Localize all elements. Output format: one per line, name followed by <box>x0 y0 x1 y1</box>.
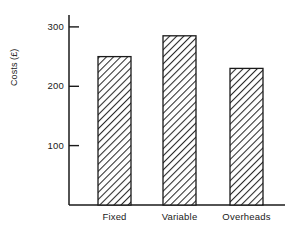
bar-overheads <box>230 68 263 205</box>
x-tick-label-overheads: Overheads <box>212 211 281 222</box>
plot-area <box>0 0 302 232</box>
bar-chart-figure: Costs (£) 300 200 100 Fixed Variable Ove… <box>0 0 302 232</box>
x-tick-label-fixed: Fixed <box>84 211 145 222</box>
bar-variable <box>163 36 196 205</box>
x-tick-label-variable: Variable <box>149 211 210 222</box>
bar-fixed <box>98 57 131 205</box>
